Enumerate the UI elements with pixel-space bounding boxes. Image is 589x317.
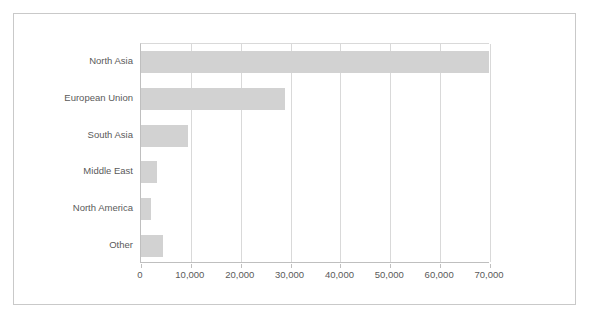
x-axis-tick-label: 30,000 xyxy=(275,269,304,280)
axis-tick xyxy=(191,264,192,268)
bar[interactable] xyxy=(141,51,489,73)
plot-area xyxy=(140,43,489,263)
bar[interactable] xyxy=(141,161,157,183)
category-label: North Asia xyxy=(89,50,140,72)
chart-frame: North AsiaEuropean UnionSouth AsiaMiddle… xyxy=(13,13,576,305)
bar-row xyxy=(141,51,490,73)
bar-row xyxy=(141,161,490,183)
axis-tick xyxy=(390,264,391,268)
gridline xyxy=(191,44,192,262)
x-axis-tick-label: 70,000 xyxy=(474,269,503,280)
bar-row xyxy=(141,125,490,147)
x-axis-tick-label: 60,000 xyxy=(425,269,454,280)
axis-tick xyxy=(340,264,341,268)
axis-tick xyxy=(440,264,441,268)
gridline xyxy=(440,44,441,262)
gridline xyxy=(291,44,292,262)
x-axis-tick-label: 40,000 xyxy=(325,269,354,280)
gridline xyxy=(340,44,341,262)
axis-tick xyxy=(241,264,242,268)
category-axis-labels: North AsiaEuropean UnionSouth AsiaMiddle… xyxy=(14,43,140,263)
axis-tick xyxy=(490,264,491,268)
bar-chart: North AsiaEuropean UnionSouth AsiaMiddle… xyxy=(14,14,577,306)
value-axis-labels: 010,00020,00030,00040,00050,00060,00070,… xyxy=(140,269,489,287)
bar[interactable] xyxy=(141,198,151,220)
bar-row xyxy=(141,88,490,110)
category-label: North America xyxy=(73,197,140,219)
gridline xyxy=(390,44,391,262)
category-label: European Union xyxy=(64,87,140,109)
bar[interactable] xyxy=(141,125,188,147)
x-axis-tick-label: 10,000 xyxy=(175,269,204,280)
bar-row xyxy=(141,198,490,220)
bar-row xyxy=(141,235,490,257)
x-axis-tick-label: 20,000 xyxy=(225,269,254,280)
category-label: South Asia xyxy=(88,124,140,146)
axis-tick xyxy=(291,264,292,268)
x-axis-tick-label: 50,000 xyxy=(375,269,404,280)
x-axis-tick-label: 0 xyxy=(137,269,142,280)
gridline xyxy=(490,44,491,262)
category-label: Middle East xyxy=(83,160,140,182)
category-label: Other xyxy=(109,234,140,256)
axis-tick xyxy=(141,264,142,268)
bar[interactable] xyxy=(141,88,285,110)
gridline xyxy=(241,44,242,262)
bar[interactable] xyxy=(141,235,163,257)
